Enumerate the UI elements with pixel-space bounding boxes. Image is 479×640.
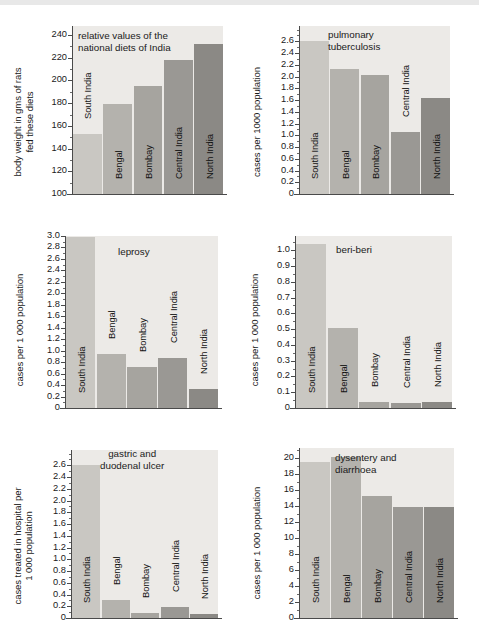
y-tick-major: [295, 182, 299, 183]
y-tick-label: 0.7: [277, 293, 290, 302]
y-tick-major: [291, 329, 295, 330]
y-tick-minor: [297, 71, 300, 72]
y-tick-label: 1.0: [47, 346, 60, 355]
bar-label-bombay: Bombay: [369, 145, 380, 179]
y-tick-major: [67, 489, 71, 490]
y-tick-major: [295, 100, 299, 101]
bar-tuberculosis-bengal: Bengal: [330, 69, 359, 194]
y-tick-major: [295, 135, 299, 136]
bar-group-ulcer: South IndiaBengalBombayCentral IndiaNort…: [72, 450, 218, 618]
y-tick-minor: [297, 106, 300, 107]
bar-dysentery-north-india: North India: [424, 507, 454, 618]
top-border-band: [0, 0, 479, 5]
y-tick-label: 1.0: [277, 246, 290, 255]
y-tick-major: [295, 53, 299, 54]
y-tick-major: [295, 554, 299, 555]
y-axis-title-leprosy: cases per 1 000 population: [6, 246, 34, 414]
y-tick-major: [68, 194, 72, 195]
y-tick-major: [295, 194, 299, 195]
y-tick-major: [68, 80, 72, 81]
y-tick-minor: [293, 353, 296, 354]
bar-leprosy-bombay: Bombay: [127, 367, 156, 408]
y-tick-minor: [70, 137, 73, 138]
bar-label-bombay: Bombay: [140, 565, 151, 599]
y-tick-minor: [63, 288, 66, 289]
bar-dysentery-bengal: Bengal: [331, 457, 361, 618]
y-tick-label: 200: [51, 76, 67, 85]
y-tick-major: [295, 159, 299, 160]
bar-label-bengal: Bengal: [106, 311, 117, 340]
y-tick-major: [295, 618, 299, 619]
y-tick-minor: [297, 466, 300, 467]
y-tick-major: [295, 171, 299, 172]
y-tick-label: 220: [51, 53, 67, 62]
y-tick-major: [291, 250, 295, 251]
y-tick-minor: [63, 356, 66, 357]
bar-label-bombay: Bombay: [369, 354, 380, 388]
y-tick-major: [295, 65, 299, 66]
y-tick-minor: [297, 498, 300, 499]
bar-label-bengal: Bengal: [340, 574, 351, 603]
y-tick-major: [61, 397, 65, 398]
y-tick-label: 14: [284, 501, 294, 510]
y-tick-label: 10: [284, 533, 294, 542]
y-tick-major: [291, 408, 295, 409]
y-tick-major: [295, 522, 299, 523]
y-tick-labels-ulcer: 00.20.40.60.81.01.21.41.61.82.02.22.42.6: [38, 428, 66, 638]
y-tick-label: 1.8: [53, 508, 66, 517]
y-tick-minor: [297, 514, 300, 515]
y-tick-label: 240: [51, 30, 67, 39]
bar-beriberi-bengal: Bengal: [328, 328, 358, 408]
y-tick-label: 0.4: [53, 590, 66, 599]
y-tick-minor: [69, 600, 72, 601]
y-tick-label: 4: [289, 581, 294, 590]
plot-area-leprosy: South IndiaBengalBombayCentral IndiaNort…: [66, 236, 218, 408]
y-tick-major: [295, 570, 299, 571]
y-axis-line-tuberculosis: [299, 26, 300, 195]
bar-label-bombay: Bombay: [142, 145, 153, 179]
y-tick-minor: [297, 129, 300, 130]
y-tick-minor: [69, 518, 72, 519]
y-tick-major: [67, 465, 71, 466]
y-tick-label: 100: [51, 189, 67, 198]
y-tick-label: 2.6: [53, 461, 66, 470]
y-tick-label: 0: [55, 403, 60, 412]
y-tick-major: [68, 126, 72, 127]
y-tick-major: [61, 374, 65, 375]
y-tick-minor: [63, 311, 66, 312]
y-tick-label: 160: [51, 121, 67, 130]
bar-diets-central-india: Central India: [164, 60, 193, 194]
bar-tuberculosis-central-india: Central India: [391, 132, 420, 194]
y-tick-label: 1.2: [281, 119, 294, 128]
y-tick-label: 0: [61, 613, 66, 622]
y-tick-label: 0.6: [53, 578, 66, 587]
y-tick-label: 0.8: [277, 277, 290, 286]
y-tick-label: 0: [289, 613, 294, 622]
y-axis-line-leprosy: [65, 236, 66, 409]
y-tick-label: 0.6: [281, 154, 294, 163]
bar-label-north-india: North India: [432, 343, 443, 388]
y-tick-minor: [63, 368, 66, 369]
bar-label-north-india: North India: [198, 329, 209, 374]
chart-panel-diets: body weight in gms of rats fed these die…: [0, 6, 239, 216]
chart-title-beriberi: beri-beri: [336, 244, 372, 256]
y-tick-label: 0.4: [277, 340, 290, 349]
y-tick-major: [295, 147, 299, 148]
y-tick-minor: [69, 577, 72, 578]
y-tick-major: [295, 77, 299, 78]
bar-label-north-india: North India: [434, 558, 445, 603]
y-tick-minor: [297, 59, 300, 60]
y-tick-minor: [63, 265, 66, 266]
y-tick-minor: [70, 160, 73, 161]
bar-group-beriberi: South IndiaBengalBombayCentral IndiaNort…: [296, 236, 452, 408]
y-tick-label: 1.4: [53, 531, 66, 540]
bar-label-bengal: Bengal: [110, 557, 121, 586]
y-tick-label: 1.2: [53, 543, 66, 552]
y-tick-label: 2.0: [53, 496, 66, 505]
bar-ulcer-central-india: Central India: [161, 607, 189, 618]
y-tick-major: [295, 458, 299, 459]
y-tick-label: 2: [289, 597, 294, 606]
y-axis-title-tuberculosis: cases per 1000 population: [246, 40, 268, 204]
y-tick-label: 18: [284, 469, 294, 478]
y-tick-major: [295, 41, 299, 42]
